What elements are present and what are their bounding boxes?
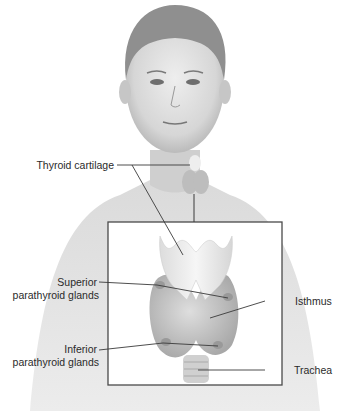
- label-trachea: Trachea: [294, 364, 332, 376]
- label-inferior-line1: Inferior: [0, 343, 97, 355]
- label-inferior-line2: parathyroid glands: [0, 356, 99, 368]
- label-thyroid-cartilage: Thyroid cartilage: [0, 159, 114, 171]
- label-superior-line2: parathyroid glands: [0, 289, 99, 301]
- thyroid-diagram: Thyroid cartilage Superior parathyroid g…: [0, 0, 347, 411]
- inferior-parathyroid-left: [161, 338, 171, 346]
- inferior-parathyroid-right: [213, 341, 223, 349]
- label-isthmus: Isthmus: [295, 295, 332, 307]
- head: [119, 5, 231, 153]
- label-superior-line1: Superior: [0, 276, 97, 288]
